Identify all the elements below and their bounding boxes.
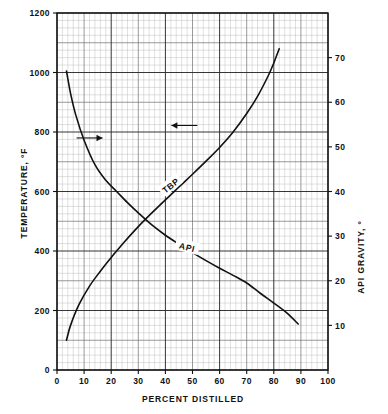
svg-text:20: 20: [335, 276, 345, 286]
svg-text:400: 400: [35, 246, 50, 256]
svg-text:0: 0: [54, 376, 59, 386]
y-axis-right-title: API GRAVITY, °: [356, 192, 366, 322]
svg-text:10: 10: [79, 376, 89, 386]
chart-plot-area: 0102030405060708090100 02004006008001000…: [0, 0, 388, 414]
chart-figure: 0102030405060708090100 02004006008001000…: [0, 0, 388, 414]
svg-text:1200: 1200: [29, 8, 50, 18]
x-axis-tick-labels: 0102030405060708090100: [54, 376, 335, 386]
y-axis-left-title: TEMPERATURE, °F: [19, 133, 29, 253]
y-axis-left-tick-labels: 020040060080010001200: [29, 8, 50, 375]
svg-text:50: 50: [335, 142, 345, 152]
svg-text:600: 600: [35, 187, 50, 197]
svg-text:40: 40: [160, 376, 170, 386]
svg-text:100: 100: [320, 376, 335, 386]
svg-text:60: 60: [214, 376, 224, 386]
svg-text:40: 40: [335, 187, 345, 197]
svg-text:800: 800: [35, 127, 50, 137]
svg-text:60: 60: [335, 97, 345, 107]
x-axis-title: PERCENT DISTILLED: [57, 394, 329, 404]
y-axis-right-tick-labels: 10203040506070: [335, 53, 345, 331]
svg-text:90: 90: [296, 376, 306, 386]
svg-text:70: 70: [335, 53, 345, 63]
svg-text:30: 30: [335, 231, 345, 241]
svg-text:0: 0: [45, 365, 50, 375]
svg-text:10: 10: [335, 321, 345, 331]
svg-text:80: 80: [269, 376, 279, 386]
svg-text:30: 30: [133, 376, 143, 386]
svg-text:70: 70: [242, 376, 252, 386]
svg-text:50: 50: [187, 376, 197, 386]
svg-text:200: 200: [35, 306, 50, 316]
svg-text:20: 20: [106, 376, 116, 386]
svg-text:1000: 1000: [29, 68, 50, 78]
